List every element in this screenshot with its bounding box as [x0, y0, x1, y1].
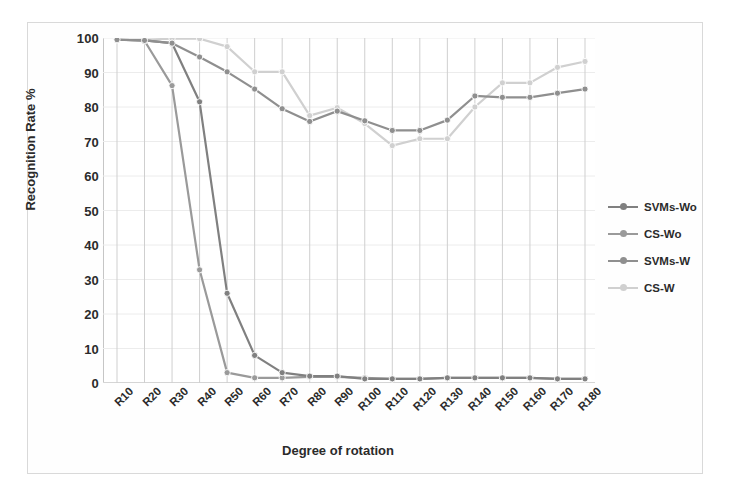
legend-item[interactable]: SVMs-Wo	[608, 193, 718, 220]
data-point	[472, 93, 478, 99]
data-point	[252, 375, 258, 381]
legend-item[interactable]: CS-W	[608, 274, 718, 301]
series-line	[117, 40, 585, 379]
data-point	[169, 83, 175, 89]
legend-marker-icon	[620, 230, 627, 237]
data-point	[279, 106, 285, 112]
data-point	[334, 373, 340, 379]
data-point	[527, 94, 533, 100]
data-point	[362, 376, 368, 382]
data-point	[307, 373, 313, 379]
legend-label: CS-W	[644, 282, 675, 294]
legend-item[interactable]: CS-Wo	[608, 220, 718, 247]
data-point	[417, 376, 423, 382]
y-axis-ticks: 1009080706050403020100	[55, 38, 99, 383]
chart-figure: 1009080706050403020100 Recognition Rate …	[0, 0, 733, 488]
data-point	[444, 136, 450, 142]
data-point	[527, 375, 533, 381]
data-point	[389, 127, 395, 133]
y-tick-label: 50	[59, 203, 99, 218]
data-point	[582, 58, 588, 64]
x-axis-title: Degree of rotation	[0, 443, 676, 458]
data-point	[224, 69, 230, 75]
data-point	[252, 352, 258, 358]
legend-label: SVMs-Wo	[644, 201, 697, 213]
legend-marker-icon	[620, 284, 627, 291]
data-point	[472, 375, 478, 381]
data-point	[444, 117, 450, 123]
data-point	[444, 375, 450, 381]
data-point	[417, 127, 423, 133]
y-tick-label: 10	[59, 341, 99, 356]
data-point	[582, 86, 588, 92]
y-tick-label: 0	[59, 376, 99, 391]
data-point	[307, 113, 313, 119]
data-point	[279, 370, 285, 376]
series-line	[117, 40, 585, 131]
data-point	[224, 44, 230, 50]
data-point	[554, 376, 560, 382]
data-point	[169, 40, 175, 46]
data-point	[196, 99, 202, 105]
data-point	[472, 104, 478, 110]
data-point	[582, 376, 588, 382]
y-tick-label: 70	[59, 134, 99, 149]
x-axis-ticks: R10R20R30R40R50R60R70R80R90R100R110R120R…	[103, 385, 595, 445]
plot-area	[103, 38, 595, 383]
legend-item[interactable]: SVMs-W	[608, 247, 718, 274]
data-point	[141, 38, 147, 44]
data-point	[196, 54, 202, 60]
data-point	[389, 376, 395, 382]
data-point	[554, 64, 560, 70]
legend-swatch	[608, 255, 638, 267]
chart-canvas	[103, 38, 595, 383]
data-point	[114, 38, 120, 43]
y-tick-label: 80	[59, 100, 99, 115]
legend-label: CS-Wo	[644, 228, 681, 240]
chart-legend: SVMs-WoCS-WoSVMs-WCS-W	[608, 193, 718, 301]
legend-marker-icon	[620, 203, 627, 210]
data-point	[334, 108, 340, 114]
series-line	[117, 40, 585, 379]
data-point	[196, 38, 202, 42]
y-tick-label: 20	[59, 307, 99, 322]
y-tick-label: 100	[59, 31, 99, 46]
data-point	[252, 69, 258, 75]
y-tick-label: 60	[59, 169, 99, 184]
data-point	[389, 143, 395, 149]
y-tick-label: 30	[59, 272, 99, 287]
legend-label: SVMs-W	[644, 255, 690, 267]
data-point	[417, 136, 423, 142]
data-point	[252, 86, 258, 92]
y-tick-label: 40	[59, 238, 99, 253]
legend-swatch	[608, 282, 638, 294]
data-point	[307, 118, 313, 124]
legend-swatch	[608, 228, 638, 240]
legend-swatch	[608, 201, 638, 213]
data-point	[196, 267, 202, 273]
data-point	[279, 69, 285, 75]
data-point	[224, 370, 230, 376]
series-line	[117, 39, 585, 146]
data-point	[224, 290, 230, 296]
y-axis-title: Recognition Rate %	[23, 50, 38, 250]
y-tick-label: 90	[59, 65, 99, 80]
data-point	[527, 80, 533, 86]
data-point	[499, 80, 505, 86]
legend-marker-icon	[620, 257, 627, 264]
data-point	[362, 118, 368, 124]
data-point	[554, 90, 560, 96]
data-point	[499, 375, 505, 381]
data-point	[499, 94, 505, 100]
